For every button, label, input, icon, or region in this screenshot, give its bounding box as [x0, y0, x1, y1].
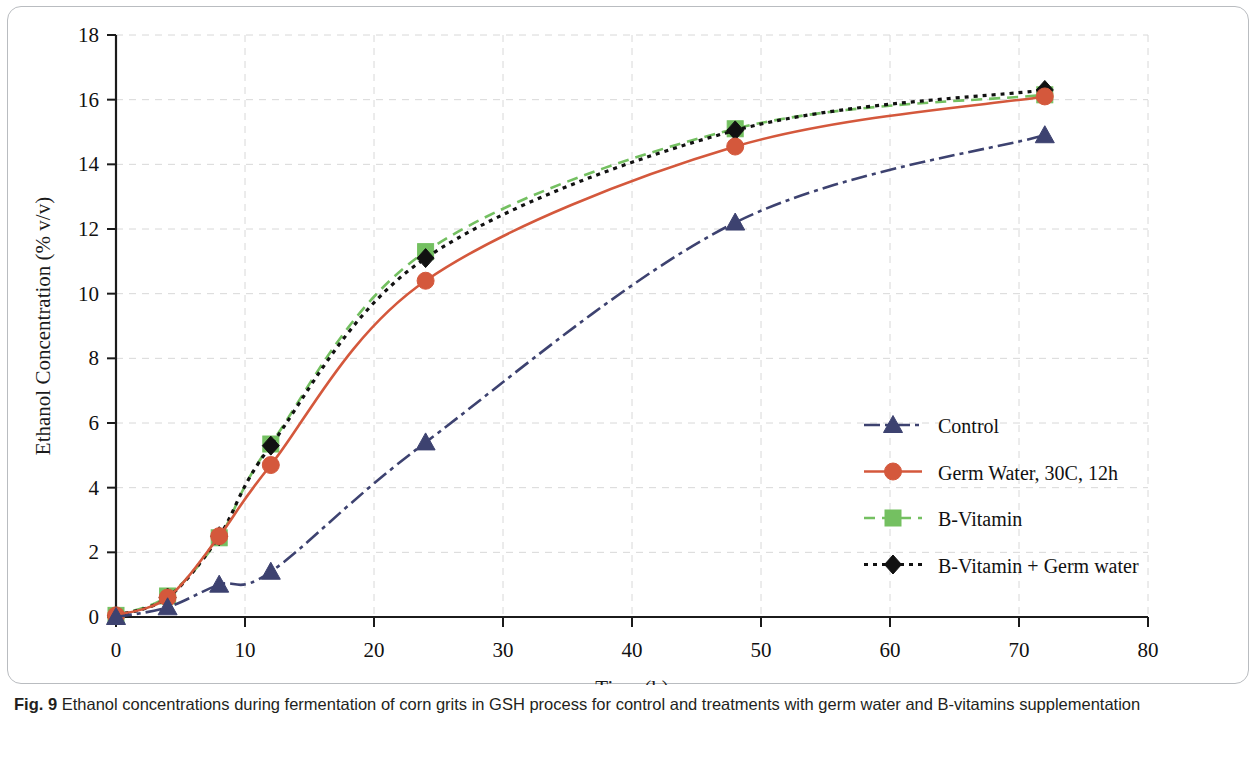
- data-point-marker: [210, 575, 229, 592]
- legend-item-b-vitamin-germ-water[interactable]: B-Vitamin + Germ water: [864, 555, 1139, 577]
- y-axis-tick-label: 0: [89, 605, 100, 629]
- y-axis-tick-label: 10: [78, 282, 99, 306]
- figure-page: 02468101214161801020304050607080Ethanol …: [0, 0, 1256, 762]
- legend-label: Control: [938, 415, 1000, 437]
- figure-caption-text: Ethanol concentrations during fermentati…: [62, 695, 1141, 713]
- x-axis-tick-label: 30: [493, 638, 514, 662]
- data-point-marker: [262, 457, 279, 474]
- figure-caption-label: Fig. 9: [14, 695, 57, 713]
- y-axis-tick-label: 12: [78, 217, 99, 241]
- series-b-vitamin: [108, 87, 1053, 624]
- series-line: [116, 96, 1045, 615]
- legend-item-b-vitamin[interactable]: B-Vitamin: [864, 508, 1022, 530]
- legend-label: Germ Water, 30C, 12h: [938, 462, 1118, 484]
- x-axis-tick-label: 80: [1138, 638, 1159, 662]
- x-axis-title: Time (h): [595, 676, 668, 685]
- x-axis-tick-label: 10: [235, 638, 256, 662]
- y-axis-tick-label: 14: [78, 152, 100, 176]
- series-germ-water-30c-12h: [108, 88, 1054, 624]
- y-axis-tick-label: 2: [89, 540, 100, 564]
- x-axis-tick-label: 60: [880, 638, 901, 662]
- series-line: [116, 95, 1045, 616]
- series-b-vitamin-germ-water: [108, 80, 1054, 624]
- data-point-marker: [261, 562, 280, 579]
- y-axis-tick-label: 18: [78, 23, 99, 47]
- y-axis-title: Ethanol Concentration (% v/v): [31, 197, 55, 455]
- data-point-marker: [211, 528, 228, 545]
- data-point-marker: [1035, 126, 1054, 143]
- x-axis-tick-label: 40: [622, 638, 643, 662]
- data-point-marker: [1036, 88, 1053, 105]
- legend-marker-sample: [885, 510, 901, 526]
- legend-label: B-Vitamin + Germ water: [938, 555, 1139, 577]
- figure-frame: 02468101214161801020304050607080Ethanol …: [7, 6, 1249, 684]
- ethanol-concentration-line-chart: 02468101214161801020304050607080Ethanol …: [8, 7, 1250, 685]
- series-line: [116, 90, 1045, 615]
- data-point-marker: [417, 272, 434, 289]
- series-line: [116, 135, 1045, 617]
- legend-marker-sample: [885, 555, 902, 574]
- x-axis-tick-label: 70: [1009, 638, 1030, 662]
- y-axis-tick-label: 16: [78, 88, 99, 112]
- legend-item-germ-water-30c-12h[interactable]: Germ Water, 30C, 12h: [864, 462, 1118, 484]
- data-point-marker: [726, 213, 745, 230]
- legend-label: B-Vitamin: [938, 508, 1022, 530]
- figure-caption: Fig. 9 Ethanol concentrations during fer…: [14, 692, 1246, 716]
- data-point-marker: [727, 138, 744, 155]
- legend-marker-sample: [885, 463, 902, 480]
- x-axis-tick-label: 50: [751, 638, 772, 662]
- y-axis-tick-label: 8: [89, 346, 100, 370]
- y-axis-tick-label: 6: [89, 411, 100, 435]
- legend-item-control[interactable]: Control: [864, 415, 1000, 437]
- x-axis-tick-label: 0: [111, 638, 122, 662]
- chart-plot-area: 02468101214161801020304050607080Ethanol …: [8, 7, 1250, 685]
- data-point-marker: [416, 433, 435, 450]
- x-axis-tick-label: 20: [364, 638, 385, 662]
- y-axis-tick-label: 4: [89, 476, 100, 500]
